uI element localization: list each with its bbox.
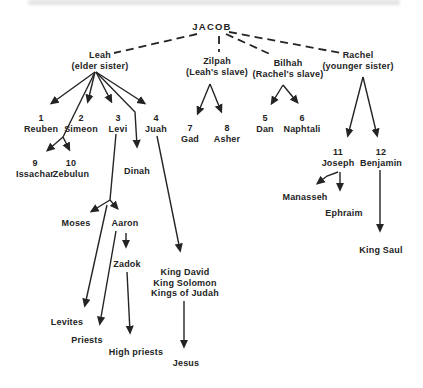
node-son-benjamin: 12 Benjamin <box>360 147 402 168</box>
node-rachel: Rachel (younger sister) <box>322 50 393 71</box>
node-jesus: Jesus <box>173 358 200 369</box>
node-moses: Moses <box>61 218 90 229</box>
node-jacob: JACOB <box>192 22 231 33</box>
node-leah: Leah (elder sister) <box>72 50 129 71</box>
node-son-simeon: 2 Simeon <box>64 113 98 134</box>
node-son-levi: 3 Levi <box>109 113 128 134</box>
node-bilhah: Bilhah (Rachel's slave) <box>253 58 324 79</box>
jacob-marriage-dashed-lines <box>114 32 341 55</box>
node-king-saul: King Saul <box>359 245 402 256</box>
node-son-gad: 7 Gad <box>181 123 199 144</box>
node-high-priests: High priests <box>109 347 163 358</box>
node-levites: Levites <box>51 317 83 328</box>
node-zadok: Zadok <box>113 259 141 270</box>
node-aaron: Aaron <box>111 218 138 229</box>
node-son-joseph: 11 Joseph <box>322 147 355 168</box>
node-dinah: Dinah <box>124 166 150 177</box>
node-son-naphtali: 6 Naphtali <box>283 113 320 134</box>
node-son-issachar: 9 Issachar <box>16 158 54 179</box>
node-zilpah: Zilpah (Leah's slave) <box>186 56 248 77</box>
family-tree-diagram: JACOB Leah (elder sister) Zilpah (Leah's… <box>0 0 423 388</box>
node-son-dan: 5 Dan <box>256 113 274 134</box>
node-ephraim: Ephraim <box>325 208 362 219</box>
node-son-reuben: 1 Reuben <box>24 113 58 134</box>
node-davidic-line: King David King Solomon Kings of Judah <box>151 267 219 299</box>
node-manasseh: Manasseh <box>282 192 327 203</box>
node-son-juah: 4 Juah <box>145 113 167 134</box>
node-priests: Priests <box>71 335 102 346</box>
node-son-zebulun: 10 Zebulun <box>53 158 89 179</box>
node-son-asher: 8 Asher <box>214 123 241 144</box>
